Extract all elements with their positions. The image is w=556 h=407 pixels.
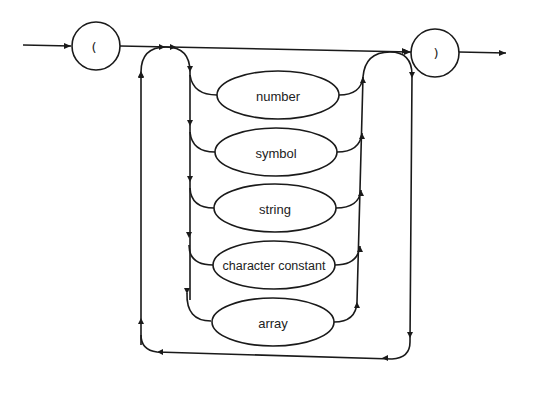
alt-array-node: array: [212, 298, 334, 346]
left-inner-rail: [166, 47, 190, 300]
arrow-icon: [359, 133, 365, 139]
alt-character-constant-label: character constant: [223, 259, 326, 273]
alt-string-label: string: [259, 202, 291, 217]
alt-symbol-label: symbol: [255, 146, 296, 161]
arrow-icon: [64, 43, 71, 49]
arrow-icon: [187, 66, 193, 72]
syntax-diagram: ( ) number symbol string character const…: [0, 0, 556, 407]
connector: [190, 75, 217, 95]
alt-array-label: array: [258, 316, 288, 331]
right-outer-loop: [390, 52, 412, 359]
alt-symbol-node: symbol: [215, 128, 337, 176]
arrow-icon: [360, 77, 366, 83]
alt-number-label: number: [256, 89, 301, 104]
entry-line: [23, 45, 71, 46]
connector: [336, 190, 361, 208]
alt-string-node: string: [214, 184, 336, 232]
open-paren-node: (: [72, 22, 120, 70]
arrow-icon: [187, 120, 193, 126]
alt-character-constant-node: character constant: [213, 241, 335, 289]
arrow-icon: [409, 72, 415, 78]
connector: [334, 302, 357, 322]
exit-line: [459, 52, 506, 53]
arrow-icon: [354, 302, 360, 308]
arrow-icon: [358, 190, 364, 196]
connector: [335, 246, 360, 265]
connector: [189, 245, 213, 265]
open-paren-label: (: [91, 40, 96, 55]
connector: [339, 77, 363, 95]
arrow-icon: [382, 355, 388, 361]
connector: [337, 133, 362, 152]
arrow-icon: [138, 318, 144, 324]
connector: [190, 188, 214, 208]
right-inner-rail: [357, 52, 390, 302]
alt-number-node: number: [217, 71, 339, 119]
connector: [190, 132, 215, 152]
arrow-icon: [157, 349, 163, 355]
arrow-icon: [186, 232, 192, 238]
close-paren-node: ): [411, 29, 459, 77]
arrow-icon: [138, 71, 144, 77]
close-paren-label: ): [433, 46, 438, 61]
arrow-icon: [187, 176, 193, 182]
left-outer-loop: [141, 47, 166, 345]
arrow-icon: [499, 50, 506, 56]
arrow-icon: [407, 332, 413, 338]
